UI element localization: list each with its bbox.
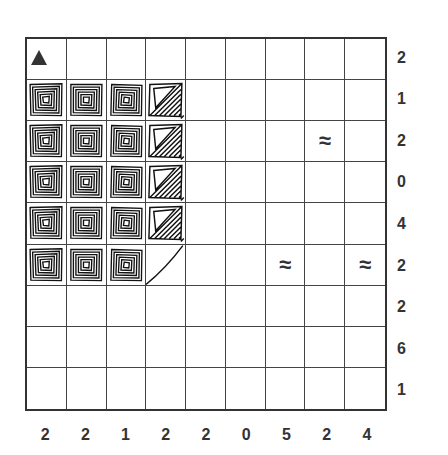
row-clue: 6 [395,328,425,370]
grid-cell[interactable] [146,203,186,244]
grid-cell[interactable] [107,162,147,203]
diagonal-texture-icon [146,121,185,161]
grid-cell[interactable] [226,203,266,244]
grid-cell[interactable] [186,162,226,203]
grid-cell[interactable] [27,80,67,121]
grid-cell[interactable] [345,39,385,80]
grid-cell[interactable]: ≈ [345,245,385,286]
spiral-texture-icon [27,80,66,120]
grid-cell[interactable] [67,245,107,286]
grid-cell[interactable] [345,162,385,203]
grid-cell[interactable] [186,39,226,80]
puzzle-board: ≈≈≈ 212042261 221220524 [0,0,448,455]
grid-cell[interactable] [305,245,345,286]
grid-cell[interactable] [67,327,107,368]
grid-cell[interactable] [107,286,147,327]
grid-cell[interactable] [67,39,107,80]
grid-cell[interactable] [266,39,306,80]
wave-icon: ≈ [279,254,291,276]
grid-cell[interactable] [146,162,186,203]
grid-cell[interactable] [107,245,147,286]
grid-cell[interactable] [305,368,345,409]
grid-cell[interactable] [146,327,186,368]
grid-cell[interactable] [186,121,226,162]
grid-cell[interactable] [186,286,226,327]
grid-cell[interactable] [67,162,107,203]
column-clue: 4 [347,420,387,450]
grid-cell[interactable] [266,368,306,409]
grid-cell[interactable] [27,368,67,409]
grid-cell[interactable] [27,327,67,368]
spiral-texture-icon [107,162,146,202]
grid-cell[interactable] [107,203,147,244]
column-clue: 0 [226,420,266,450]
grid-cell[interactable] [27,121,67,162]
grid-cell[interactable] [305,80,345,121]
grid-cell[interactable] [345,203,385,244]
grid-cell[interactable] [27,162,67,203]
grid-cell[interactable] [226,39,266,80]
grid-cell[interactable] [226,286,266,327]
grid-cell[interactable] [107,121,147,162]
grid-cell[interactable]: ≈ [266,245,306,286]
grid-cell[interactable] [186,327,226,368]
grid-cell[interactable] [186,203,226,244]
grid-cell[interactable] [186,368,226,409]
spiral-texture-icon [107,203,146,243]
grid-cell[interactable] [266,203,306,244]
grid-cell[interactable] [345,80,385,121]
spiral-texture-icon [27,121,66,161]
grid-cell[interactable] [305,39,345,80]
grid-cell[interactable] [266,80,306,121]
row-clue: 2 [395,37,425,79]
grid-cell[interactable] [305,286,345,327]
grid-cell[interactable] [186,80,226,121]
grid-cell[interactable] [226,162,266,203]
spiral-texture-icon [27,245,66,285]
grid-cell[interactable] [107,327,147,368]
grid-cell[interactable] [67,121,107,162]
grid-cell[interactable] [67,286,107,327]
grid-cell[interactable] [27,39,67,80]
grid-cell[interactable] [107,368,147,409]
grid-cell[interactable] [345,368,385,409]
grid-cell[interactable] [226,80,266,121]
grid-cell[interactable] [67,368,107,409]
grid-cell[interactable]: ≈ [305,121,345,162]
grid-cell[interactable] [27,203,67,244]
grid-cell[interactable] [67,203,107,244]
spiral-texture-icon [67,245,106,285]
grid-cell[interactable] [107,80,147,121]
grid-cell[interactable] [146,286,186,327]
grid-cell[interactable] [27,286,67,327]
row-clue: 1 [395,79,425,121]
spiral-texture-icon [67,121,106,161]
grid-cell[interactable] [226,327,266,368]
grid-cell[interactable] [146,80,186,121]
grid-cell[interactable] [266,286,306,327]
grid-cell[interactable] [226,121,266,162]
grid-cell[interactable] [266,121,306,162]
grid-cell[interactable] [226,368,266,409]
row-clue: 0 [395,162,425,204]
grid-cell[interactable] [266,327,306,368]
grid-cell[interactable] [305,162,345,203]
grid-cell[interactable] [146,245,186,286]
grid-cell[interactable] [146,39,186,80]
grid-cell[interactable] [305,203,345,244]
grid-cell[interactable] [345,121,385,162]
grid-cell[interactable] [186,245,226,286]
diagonal-texture-icon [146,162,185,202]
grid-cell[interactable] [345,286,385,327]
grid-cell[interactable] [305,327,345,368]
grid-cell[interactable] [107,39,147,80]
grid-cell[interactable] [345,327,385,368]
grid-cell[interactable] [226,245,266,286]
grid-cell[interactable] [27,245,67,286]
puzzle-grid: ≈≈≈ [25,37,387,411]
grid-cell[interactable] [67,80,107,121]
grid-cell[interactable] [146,368,186,409]
triangle-icon [31,50,47,65]
grid-cell[interactable] [266,162,306,203]
grid-cell[interactable] [146,121,186,162]
